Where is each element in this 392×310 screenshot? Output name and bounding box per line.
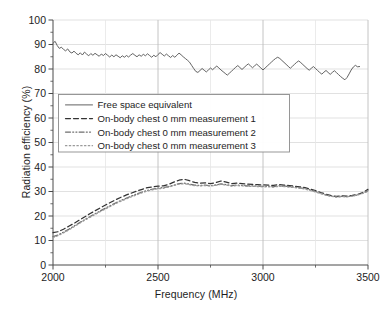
chart-background: [0, 0, 392, 310]
y-tick-label: 0: [40, 259, 46, 271]
y-tick-label: 40: [34, 161, 46, 173]
y-tick-label: 30: [34, 185, 46, 197]
chart-legend[interactable]: Free space equivalentOn-body chest 0 mm …: [59, 95, 290, 153]
legend-item-label[interactable]: On-body chest 0 mm measurement 1: [98, 113, 256, 124]
y-tick-label: 60: [34, 112, 46, 124]
y-tick-label: 100: [28, 14, 46, 26]
y-tick-label: 70: [34, 87, 46, 99]
x-axis-title: Frequency (MHz): [0, 288, 392, 300]
legend-item-label[interactable]: Free space equivalent: [98, 99, 193, 110]
radiation-efficiency-chart-figure: 0102030405060708090100 2000250030003500 …: [0, 0, 392, 310]
y-tick-label: 80: [34, 63, 46, 75]
y-tick-label: 10: [34, 234, 46, 246]
x-tick-label: 2000: [41, 271, 65, 283]
y-tick-label: 90: [34, 38, 46, 50]
y-tick-label: 50: [34, 136, 46, 148]
legend-item-label[interactable]: On-body chest 0 mm measurement 3: [98, 140, 256, 151]
y-axis-title: Radiation efficiency (%): [20, 52, 32, 232]
x-tick-label: 2500: [146, 271, 170, 283]
legend-item-label[interactable]: On-body chest 0 mm measurement 2: [98, 127, 256, 138]
x-tick-label: 3000: [251, 271, 275, 283]
chart-plot-svg: 0102030405060708090100 2000250030003500 …: [0, 0, 392, 310]
y-tick-label: 20: [34, 210, 46, 222]
x-tick-label: 3500: [356, 271, 380, 283]
